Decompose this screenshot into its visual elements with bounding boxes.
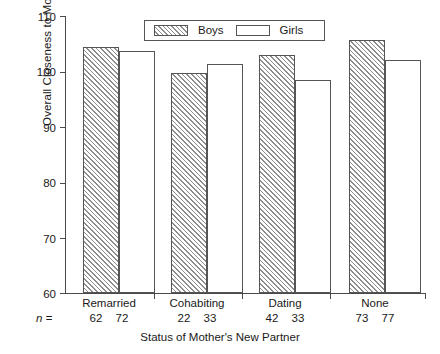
bar-boys-cohabiting — [171, 73, 207, 294]
y-tick-label: 60 — [28, 286, 56, 302]
plot-area: 60 70 80 90 100 110 — [65, 17, 425, 294]
y-tick-mark — [60, 238, 66, 239]
y-tick-label: 90 — [28, 120, 56, 136]
n-values-remarried: 6272 — [65, 312, 153, 324]
n-boys: 22 — [171, 312, 197, 324]
x-tick-separator — [425, 293, 426, 299]
y-tick-mark — [60, 72, 66, 73]
bar-girls-cohabiting — [207, 64, 243, 293]
x-category-label-dating: Dating — [241, 297, 329, 309]
n-girls: 72 — [109, 312, 135, 324]
n-values-cohabiting: 2233 — [153, 312, 241, 324]
n-girls: 33 — [197, 312, 223, 324]
bar-boys-none — [349, 40, 385, 293]
n-girls: 77 — [375, 312, 401, 324]
legend-label-boys: Boys — [188, 24, 236, 36]
y-axis-title: Overall Closeness to Mother — [41, 0, 53, 177]
y-tick-label: 100 — [28, 64, 56, 80]
bar-boys-remarried — [83, 47, 119, 294]
x-category-label-none: None — [329, 297, 421, 309]
legend: Boys Girls — [144, 20, 325, 41]
x-category-label-remarried: Remarried — [65, 297, 153, 309]
n-boys: 42 — [259, 312, 285, 324]
x-category-label-cohabiting: Cohabiting — [153, 297, 241, 309]
legend-swatch-girls — [236, 25, 270, 36]
y-tick-mark — [60, 183, 66, 184]
bar-girls-remarried — [119, 51, 155, 293]
bar-chart: Overall Closeness to Mother 60 70 80 90 … — [0, 0, 440, 354]
n-boys: 73 — [349, 312, 375, 324]
y-tick-label: 70 — [28, 231, 56, 247]
n-italic: n = — [36, 312, 52, 324]
legend-swatch-boys — [154, 25, 188, 36]
x-axis-title: Status of Mother's New Partner — [0, 331, 440, 343]
legend-label-girls: Girls — [270, 24, 316, 36]
y-tick-mark — [60, 16, 66, 17]
n-row-label: n = — [36, 312, 52, 324]
y-tick-label: 80 — [28, 175, 56, 191]
y-tick-mark — [60, 127, 66, 128]
n-boys: 62 — [83, 312, 109, 324]
n-girls: 33 — [285, 312, 311, 324]
y-tick-label: 110 — [28, 9, 56, 25]
n-values-none: 7377 — [329, 312, 421, 324]
bar-girls-none — [385, 60, 421, 293]
n-values-dating: 4233 — [241, 312, 329, 324]
bar-girls-dating — [295, 80, 331, 293]
y-tick-mark — [60, 293, 66, 294]
bar-boys-dating — [259, 55, 295, 293]
